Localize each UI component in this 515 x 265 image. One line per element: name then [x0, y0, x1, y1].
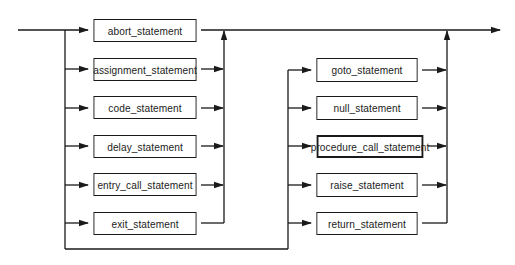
syntax-diagram-lines — [0, 0, 515, 265]
null-statement-box: null_statement — [316, 96, 417, 120]
box-label: procedure_call_statement — [311, 141, 430, 153]
entry-call-statement-box: entry_call_statement — [93, 173, 196, 196]
raise-statement-box: raise_statement — [316, 173, 417, 197]
box-label: delay_statement — [107, 141, 183, 153]
procedure-call-statement-box: procedure_call_statement — [317, 135, 424, 158]
assignment-statement-box: assignment_statement — [93, 58, 196, 81]
code-statement-box: code_statement — [93, 96, 196, 119]
box-label: exit_statement — [111, 218, 178, 230]
box-label: entry_call_statement — [97, 179, 192, 191]
goto-statement-box: goto_statement — [316, 58, 417, 82]
box-label: return_statement — [328, 218, 406, 230]
box-label: null_statement — [333, 102, 400, 114]
exit-statement-box: exit_statement — [93, 212, 196, 235]
box-label: raise_statement — [330, 179, 403, 191]
delay-statement-box: delay_statement — [93, 135, 196, 158]
abort-statement-box: abort_statement — [93, 19, 196, 42]
box-label: goto_statement — [331, 64, 402, 76]
box-label: abort_statement — [108, 25, 183, 37]
box-label: code_statement — [108, 102, 181, 114]
return-statement-box: return_statement — [316, 212, 417, 235]
box-label: assignment_statement — [93, 64, 197, 76]
